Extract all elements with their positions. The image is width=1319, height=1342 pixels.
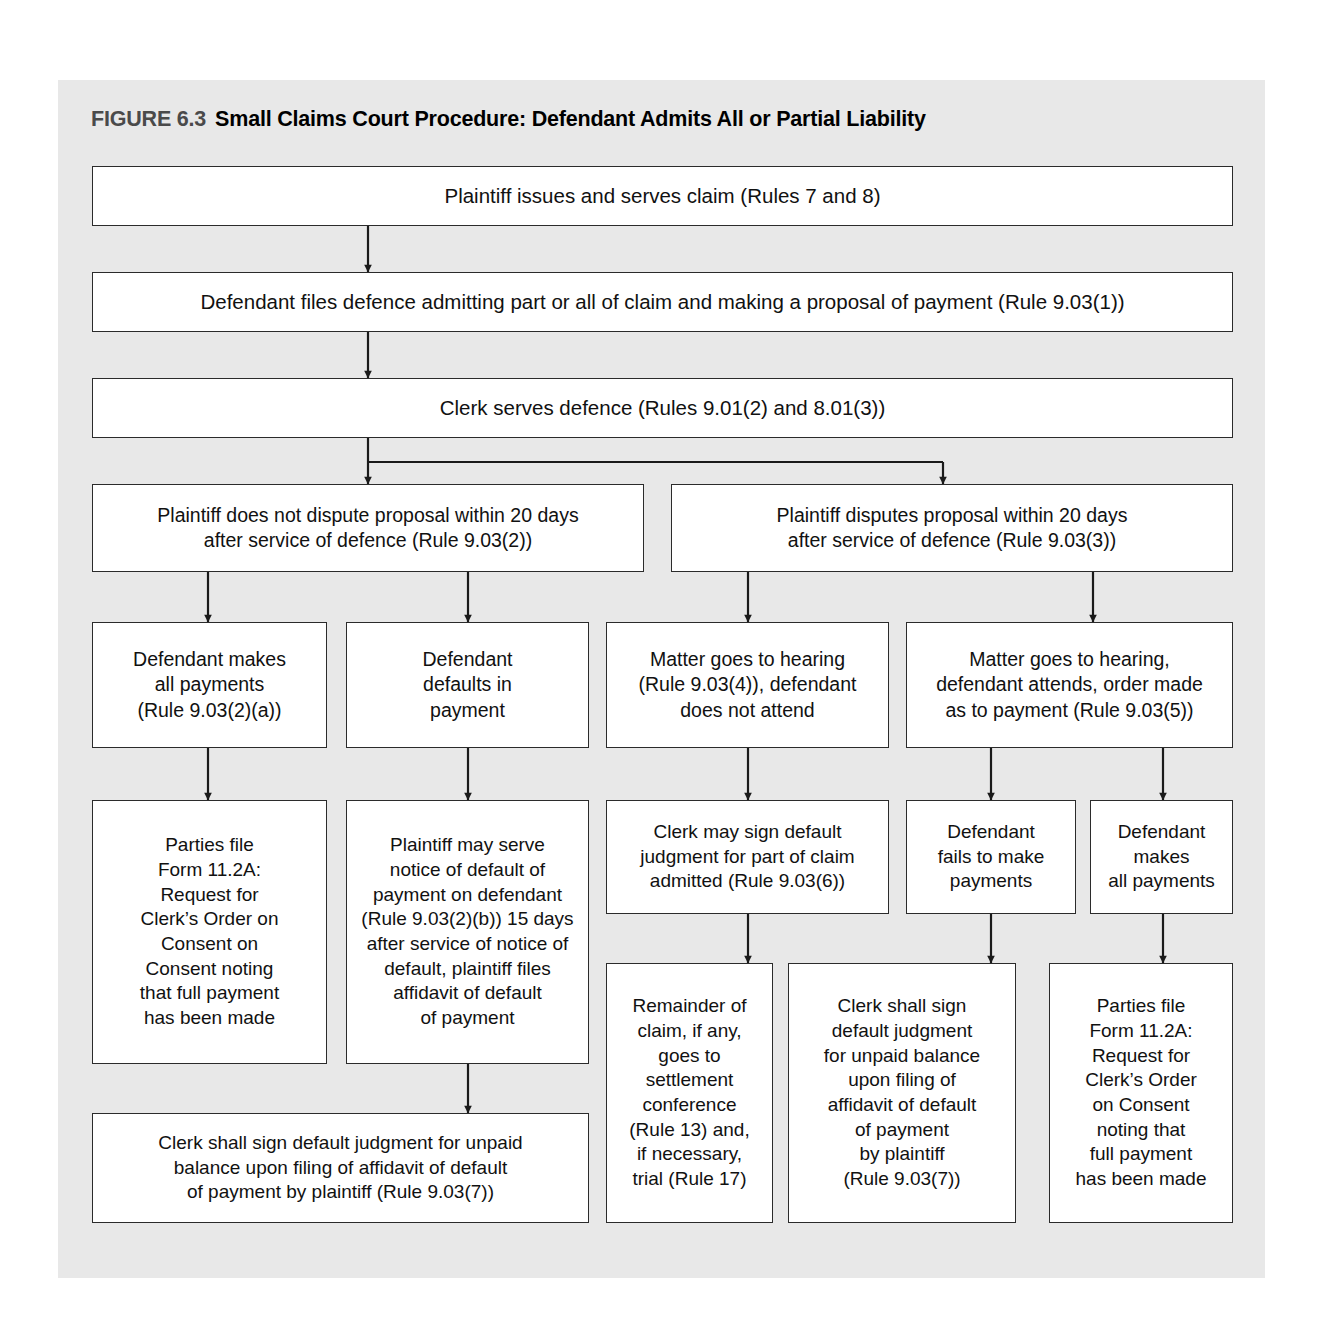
flow-node-defendant-defaults-in-payment[interactable]: Defendant defaults in payment <box>346 622 589 748</box>
flow-node-defendant-makes-all-payments[interactable]: Defendant makes all payments (Rule 9.03(… <box>92 622 327 748</box>
flow-node-text: Matter goes to hearing (Rule 9.03(4)), d… <box>639 647 857 723</box>
flow-node-text: Defendant makes all payments <box>1108 820 1215 894</box>
flow-node-text: Clerk serves defence (Rules 9.01(2) and … <box>440 395 886 422</box>
flow-node-plaintiff-does-not-dispute[interactable]: Plaintiff does not dispute proposal with… <box>92 484 644 572</box>
flow-node-plaintiff-disputes[interactable]: Plaintiff disputes proposal within 20 da… <box>671 484 1233 572</box>
flow-node-parties-file-form-11-2a-right[interactable]: Parties file Form 11.2A: Request for Cle… <box>1049 963 1233 1223</box>
flow-node-defendant-fails-to-make-payments[interactable]: Defendant fails to make payments <box>906 800 1076 914</box>
flow-node-text: Matter goes to hearing, defendant attend… <box>936 647 1203 723</box>
flow-node-remainder-of-claim-settlement-conference[interactable]: Remainder of claim, if any, goes to sett… <box>606 963 773 1223</box>
flow-node-text: Clerk may sign default judgment for part… <box>640 820 854 894</box>
flow-node-text: Parties file Form 11.2A: Request for Cle… <box>1076 994 1207 1192</box>
flow-node-text: Defendant fails to make payments <box>938 820 1045 894</box>
flow-node-text: Plaintiff does not dispute proposal with… <box>157 503 578 554</box>
flow-node-clerk-serves-defence[interactable]: Clerk serves defence (Rules 9.01(2) and … <box>92 378 1233 438</box>
flow-node-text: Defendant files defence admitting part o… <box>200 289 1124 316</box>
flow-node-text: Clerk shall sign default judgment for un… <box>824 994 980 1192</box>
flow-node-defendant-files-defence[interactable]: Defendant files defence admitting part o… <box>92 272 1233 332</box>
flow-node-text: Plaintiff issues and serves claim (Rules… <box>444 183 880 210</box>
flow-node-text: Defendant makes all payments (Rule 9.03(… <box>133 647 286 723</box>
figure-panel: FIGURE 6.3Small Claims Court Procedure: … <box>58 80 1265 1278</box>
flow-node-clerk-may-sign-default-judgment[interactable]: Clerk may sign default judgment for part… <box>606 800 889 914</box>
flowchart: Plaintiff issues and serves claim (Rules… <box>58 80 1265 1278</box>
flow-node-text: Defendant defaults in payment <box>423 647 513 723</box>
flow-node-clerk-shall-sign-default-judgment-unpaid-balance[interactable]: Clerk shall sign default judgment for un… <box>788 963 1016 1223</box>
flow-node-text: Plaintiff may serve notice of default of… <box>361 833 573 1031</box>
flow-node-text: Remainder of claim, if any, goes to sett… <box>629 994 749 1192</box>
flow-node-defendant-makes-all-payments-right[interactable]: Defendant makes all payments <box>1090 800 1233 914</box>
flow-node-plaintiff-may-serve-notice-of-default[interactable]: Plaintiff may serve notice of default of… <box>346 800 589 1064</box>
flow-node-text: Plaintiff disputes proposal within 20 da… <box>777 503 1128 554</box>
flow-node-text: Clerk shall sign default judgment for un… <box>158 1131 522 1205</box>
flow-node-hearing-defendant-absent[interactable]: Matter goes to hearing (Rule 9.03(4)), d… <box>606 622 889 748</box>
flow-node-plaintiff-issues-claim[interactable]: Plaintiff issues and serves claim (Rules… <box>92 166 1233 226</box>
flow-node-hearing-defendant-attends[interactable]: Matter goes to hearing, defendant attend… <box>906 622 1233 748</box>
flow-node-text: Parties file Form 11.2A: Request for Cle… <box>140 833 279 1031</box>
flow-node-parties-file-form-11-2a-left[interactable]: Parties file Form 11.2A: Request for Cle… <box>92 800 327 1064</box>
flow-node-clerk-shall-sign-default-judgment-bottom-left[interactable]: Clerk shall sign default judgment for un… <box>92 1113 589 1223</box>
